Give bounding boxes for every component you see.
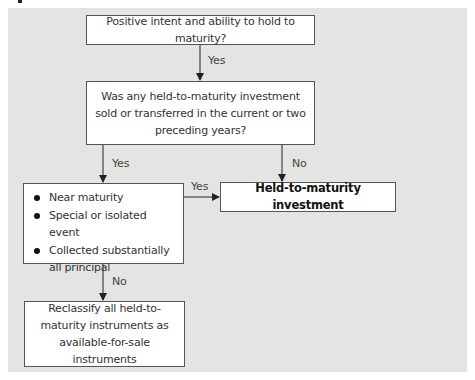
node-prior-sales-text: Was any held-to-maturity investment sold… xyxy=(95,88,306,139)
node-htm-text: Held-to-maturity investment xyxy=(221,180,395,214)
edge-label-yes-3: Yes xyxy=(191,180,208,193)
node-prior-sales: Was any held-to-maturity investment sold… xyxy=(86,81,315,145)
edge-label-no-2: No xyxy=(112,275,127,288)
node-intent-text: Positive intent and ability to hold to m… xyxy=(87,13,314,47)
node-htm: Held-to-maturity investment xyxy=(220,182,396,212)
exception-item: Near maturity xyxy=(34,189,177,207)
node-reclassify: Reclassify all held-to-maturity instrume… xyxy=(24,301,185,367)
edge-label-yes-1: Yes xyxy=(208,54,225,67)
node-reclassify-text: Reclassify all held-to-maturity instrume… xyxy=(31,300,178,368)
exceptions-list: Near maturity Special or isolated event … xyxy=(34,189,177,277)
exception-item: Collected substantially all principal xyxy=(34,242,177,277)
node-intent: Positive intent and ability to hold to m… xyxy=(86,15,315,45)
node-exceptions: Near maturity Special or isolated event … xyxy=(23,183,184,264)
edge-label-no-1: No xyxy=(292,157,307,170)
exception-item: Special or isolated event xyxy=(34,207,177,242)
edge-label-yes-2: Yes xyxy=(112,157,129,170)
